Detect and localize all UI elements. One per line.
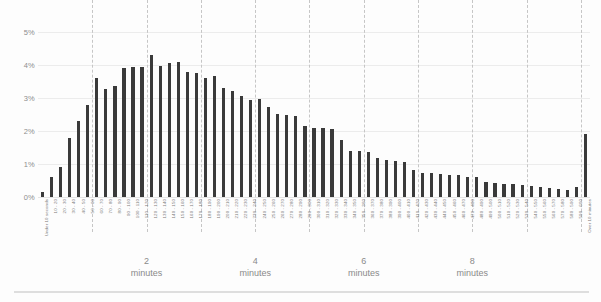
x-axis-tick-label: 420 - 430 <box>424 199 429 218</box>
x-axis-tick-label: 170 - 180 <box>198 199 203 218</box>
x-axis-tick-label: 350 - 360 <box>361 199 366 218</box>
bar-series <box>38 32 590 197</box>
minute-marker: 8minutes <box>457 255 489 279</box>
x-axis-tick-label: 270 - 280 <box>289 199 294 218</box>
bar <box>159 66 162 197</box>
x-axis-tick-label: 310 - 320 <box>325 199 330 218</box>
minute-marker-number: 4 <box>239 255 271 267</box>
x-axis-tick-label: 550 - 560 <box>542 199 547 218</box>
bar <box>303 126 306 197</box>
x-axis-tick-label: 220 - 230 <box>243 199 248 218</box>
x-axis-tick-label: 70 - 80 <box>108 199 113 213</box>
bar <box>376 158 379 197</box>
bar <box>168 63 171 197</box>
x-axis-tick-label: 440 - 450 <box>442 199 447 218</box>
bar <box>113 86 116 197</box>
x-axis-tick-label: 490 - 500 <box>488 199 493 218</box>
x-axis-tick-label: 520 - 530 <box>515 199 520 218</box>
x-axis-tick-label: 120 - 130 <box>153 199 158 218</box>
x-axis-tick-label: 450 - 460 <box>452 199 457 218</box>
x-axis-tick-label: 290 - 300 <box>307 199 312 218</box>
bar <box>502 184 505 197</box>
x-axis-tick-label: 90 - 100 <box>126 199 131 216</box>
bar <box>349 151 352 197</box>
x-axis-tick-label: 320 - 330 <box>334 199 339 218</box>
bar <box>186 72 189 197</box>
x-axis-tick-labels: Under 10 seconds10 - 2020 - 3030 - 4040 … <box>38 199 590 245</box>
x-axis-tick-label: 30 - 40 <box>71 199 76 213</box>
bar <box>367 152 370 197</box>
bar <box>521 185 524 197</box>
x-axis-tick-label: 100 - 110 <box>135 199 140 218</box>
bar <box>340 140 343 197</box>
bar <box>294 116 297 197</box>
minute-marker: 4minutes <box>239 255 271 279</box>
bar <box>403 162 406 197</box>
x-axis-tick-label: 560 - 570 <box>551 199 556 218</box>
bar <box>86 105 89 197</box>
bar <box>439 174 442 197</box>
x-axis-tick-label: 540 - 550 <box>533 199 538 218</box>
bar <box>204 78 207 197</box>
bar <box>131 67 134 197</box>
x-axis-tick-label: 570 - 580 <box>560 199 565 218</box>
y-gridline <box>38 197 590 198</box>
bar <box>177 62 180 197</box>
x-axis-tick-label: 340 - 350 <box>352 199 357 218</box>
bar <box>285 115 288 198</box>
x-axis-tick-label: 230 - 240 <box>252 199 257 218</box>
bar <box>448 175 451 197</box>
bar <box>430 173 433 197</box>
bar <box>50 177 53 197</box>
histogram-chart: 0%1%2%3%4%5% Under 10 seconds10 - 2020 -… <box>0 0 601 302</box>
x-axis-tick-label: 470 - 480 <box>470 199 475 218</box>
x-axis-tick-label: 160 - 170 <box>189 199 194 218</box>
x-axis-tick-label: 210 - 220 <box>234 199 239 218</box>
bar <box>68 138 71 197</box>
x-axis-tick-label: 500 - 510 <box>497 199 502 218</box>
bar <box>412 170 415 197</box>
y-axis-tick-label: 4% <box>24 61 35 70</box>
bar <box>41 192 44 197</box>
x-axis-tick-label: 530 - 540 <box>524 199 529 218</box>
footer-divider <box>14 291 589 293</box>
x-axis-tick-label: 20 - 30 <box>62 199 67 213</box>
x-axis-tick-label: 10 - 20 <box>53 199 58 213</box>
x-axis-tick-label: 140 - 150 <box>171 199 176 218</box>
x-axis-tick-label: 360 - 370 <box>370 199 375 218</box>
x-axis-tick-label: 80 - 90 <box>117 199 122 213</box>
bar <box>267 107 270 197</box>
x-axis-tick-label: 110 - 120 <box>144 199 149 218</box>
x-axis-tick-label: 50 - 60 <box>90 199 95 213</box>
bar <box>321 128 324 197</box>
bar <box>466 177 469 197</box>
x-axis-tick-label: 480 - 490 <box>479 199 484 218</box>
x-axis-tick-label: 250 - 260 <box>271 199 276 218</box>
x-axis-tick-label: 130 - 140 <box>162 199 167 218</box>
minute-marker: 2minutes <box>131 255 163 279</box>
x-axis-tick-label: 60 - 70 <box>99 199 104 213</box>
x-axis-tick-label: 390 - 400 <box>397 199 402 218</box>
x-axis-tick-label: 300 - 310 <box>316 199 321 218</box>
minute-marker-number: 8 <box>457 255 489 267</box>
x-axis-tick-label: Under 10 seconds <box>44 199 49 236</box>
x-axis-tick-label: 150 - 160 <box>180 199 185 218</box>
bar <box>385 160 388 197</box>
minute-marker-unit: minutes <box>348 267 380 279</box>
bar <box>421 173 424 197</box>
x-axis-tick-label: 260 - 270 <box>280 199 285 218</box>
y-axis-tick-label: 2% <box>24 127 35 136</box>
bar <box>258 99 261 197</box>
bar <box>150 55 153 197</box>
y-axis-tick-label: 3% <box>24 94 35 103</box>
bar <box>213 76 216 197</box>
bar <box>584 134 587 197</box>
bar <box>457 175 460 197</box>
bar <box>493 183 496 197</box>
x-axis-minute-labels: 2minutes4minutes6minutes8minutes <box>38 255 590 289</box>
x-axis-tick-label: Over 10 minutes <box>587 199 592 233</box>
x-axis-tick-label: 590 - 600 <box>578 199 583 218</box>
x-axis-tick-label: 190 - 200 <box>216 199 221 218</box>
x-axis-tick-label: 280 - 290 <box>298 199 303 218</box>
bar <box>330 129 333 197</box>
